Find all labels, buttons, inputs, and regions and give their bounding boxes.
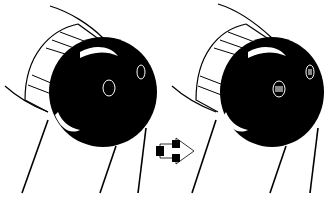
diagram-panel-after xyxy=(162,0,324,211)
ball-in-holder-after-illustration xyxy=(162,0,324,211)
diagram-panel-before xyxy=(0,0,162,211)
ball-in-holder-before-illustration xyxy=(0,0,162,211)
